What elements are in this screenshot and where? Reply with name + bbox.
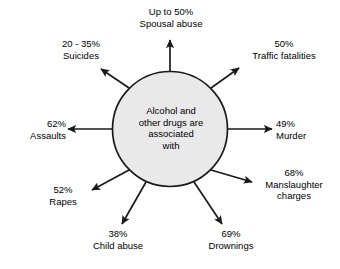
center-line-1: Alcohol and — [120, 105, 222, 117]
label-assaults-percent: 62% — [2, 118, 66, 130]
diagram-canvas: Alcohol and other drugs are associated w… — [0, 0, 340, 269]
label-murder-name: Murder — [276, 130, 338, 142]
center-circle-text: Alcohol and other drugs are associated w… — [120, 105, 222, 151]
arrow-suicides — [101, 69, 129, 88]
label-assaults: 62% Assaults — [2, 118, 66, 141]
arrow-traffic — [211, 68, 239, 88]
label-assaults-name: Assaults — [2, 130, 66, 142]
arrow-rapes — [92, 170, 129, 190]
label-spousal-abuse-name: Spousal abuse — [113, 18, 229, 30]
label-child-abuse: 38% Child abuse — [72, 228, 164, 251]
center-line-2: other drugs are — [120, 117, 222, 129]
label-manslaughter-charges-name2: charges — [250, 190, 338, 202]
label-rapes-percent: 52% — [30, 184, 96, 196]
label-child-abuse-name: Child abuse — [72, 240, 164, 252]
label-child-abuse-percent: 38% — [72, 228, 164, 240]
label-traffic-fatalities-percent: 50% — [228, 38, 340, 50]
center-line-3: associated — [120, 128, 222, 140]
label-manslaughter-charges-percent: 68% — [250, 167, 338, 179]
label-spousal-abuse-percent: Up to 50% — [113, 6, 229, 18]
label-suicides: 20 - 35% Suicides — [38, 38, 124, 61]
label-suicides-name: Suicides — [38, 50, 124, 62]
label-traffic-fatalities: 50% Traffic fatalities — [228, 38, 340, 61]
label-drownings-percent: 69% — [188, 228, 274, 240]
label-manslaughter-charges-name: Manslaughter — [250, 179, 338, 191]
label-drownings: 69% Drownings — [188, 228, 274, 251]
label-rapes: 52% Rapes — [30, 184, 96, 207]
label-spousal-abuse: Up to 50% Spousal abuse — [113, 6, 229, 29]
label-rapes-name: Rapes — [30, 196, 96, 208]
label-drownings-name: Drownings — [188, 240, 274, 252]
arrow-child-abuse — [122, 182, 146, 224]
arrow-drownings — [194, 182, 222, 224]
label-murder-percent: 49% — [276, 118, 338, 130]
arrow-manslaughter — [211, 170, 252, 182]
center-line-4: with — [120, 140, 222, 152]
label-suicides-percent: 20 - 35% — [38, 38, 124, 50]
label-murder: 49% Murder — [276, 118, 338, 141]
label-traffic-fatalities-name: Traffic fatalities — [228, 50, 340, 62]
label-manslaughter-charges: 68% Manslaughter charges — [250, 167, 338, 202]
